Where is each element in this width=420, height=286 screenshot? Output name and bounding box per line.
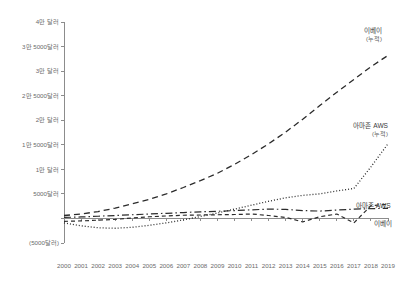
x-tick-label: 2014 [296, 262, 310, 269]
y-tick-label: 2만 5000달러 [22, 92, 59, 100]
x-tick-label: 2002 [91, 262, 105, 269]
x-tick-label: 2016 [330, 262, 344, 269]
series-line-3 [64, 204, 388, 223]
x-tick-label: 2019 [381, 262, 395, 269]
x-tick-label: 2003 [108, 262, 122, 269]
x-tick-label: 2017 [347, 262, 361, 269]
x-tick-label: 2009 [211, 262, 225, 269]
x-tick-label: 2018 [364, 262, 378, 269]
x-tick-label: 2013 [279, 262, 293, 269]
y-tick-label: 4만 달러 [36, 18, 59, 26]
x-tick-label: 2015 [313, 262, 327, 269]
x-tick-label: 2008 [194, 262, 208, 269]
line-chart: 4만 달러3만 5000달러3만 달러2만 5000달러2만 달러1만 5000… [0, 0, 420, 286]
x-tick-label: 2001 [74, 262, 88, 269]
chart-canvas: 4만 달러3만 5000달러3만 달러2만 5000달러2만 달러1만 5000… [0, 0, 420, 286]
series-lines [64, 55, 388, 228]
y-tick-label: 3만 5000달러 [22, 43, 59, 51]
x-axis-ticks: 2000200120022003200420052006200720082009… [57, 218, 395, 269]
x-tick-label: 2012 [262, 262, 276, 269]
y-axis-ticks: 4만 달러3만 5000달러3만 달러2만 5000달러2만 달러1만 5000… [22, 18, 64, 247]
series-label-title: 이베이 [364, 26, 382, 35]
series-label-subtitle: (누적) [372, 131, 388, 138]
x-tick-label: 2005 [142, 262, 156, 269]
y-tick-label: (5000달러) [29, 239, 59, 247]
y-tick-label: 1만 5000달러 [22, 141, 59, 149]
x-tick-label: 2010 [228, 262, 242, 269]
series-line-4 [64, 208, 388, 217]
series-label-title: 아마존 AWS [356, 201, 391, 210]
series-label-subtitle: (누적) [366, 36, 382, 43]
x-tick-label: 2011 [245, 262, 259, 269]
x-tick-label: 2000 [57, 262, 71, 269]
x-tick-label: 2004 [125, 262, 139, 269]
x-tick-label: 2006 [159, 262, 173, 269]
series-line-1 [64, 55, 388, 215]
series-label-title: 아마존 AWS [353, 121, 388, 130]
series-label-title: 이베이 [374, 219, 392, 228]
y-tick-label: 3만 달러 [36, 67, 59, 75]
y-tick-label: 5000달러 [33, 190, 59, 198]
y-tick-label: 2만 달러 [36, 116, 59, 124]
x-tick-label: 2007 [176, 262, 190, 269]
y-tick-label: 1만 달러 [36, 166, 59, 174]
